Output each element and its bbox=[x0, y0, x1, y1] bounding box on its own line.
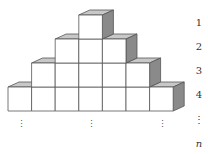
column-dots-right: ⋮ bbox=[158, 119, 167, 129]
cube-front-face bbox=[126, 87, 150, 111]
cube-front-face bbox=[32, 87, 56, 111]
row-label-3: 3 bbox=[193, 65, 205, 76]
cube-front-face bbox=[79, 87, 103, 111]
cube-front-face bbox=[8, 87, 32, 111]
cube-front-face bbox=[55, 63, 79, 87]
row-label-1: 1 bbox=[193, 17, 205, 28]
row-label-continuation: ⋮ bbox=[193, 114, 205, 125]
column-dots-center: ⋮ bbox=[87, 119, 96, 129]
row-label-2: 2 bbox=[193, 41, 205, 52]
cube-side-face bbox=[150, 58, 161, 87]
cube-front-face bbox=[126, 63, 150, 87]
cube-front-face bbox=[55, 39, 79, 63]
cube-side-face bbox=[102, 10, 113, 39]
cube-front-face bbox=[79, 63, 103, 87]
cube-front-face bbox=[55, 87, 79, 111]
cube-side-face bbox=[173, 82, 184, 111]
cube-pyramid bbox=[0, 0, 208, 154]
row-label-4: 4 bbox=[193, 89, 205, 100]
cube-front-face bbox=[102, 87, 126, 111]
cube-side-face bbox=[126, 34, 137, 63]
cube-front-face bbox=[150, 87, 174, 111]
cube-front-face bbox=[79, 15, 103, 39]
row-label-n: n bbox=[193, 138, 205, 149]
cube-front-face bbox=[79, 39, 103, 63]
cube-front-face bbox=[102, 63, 126, 87]
cube-front-face bbox=[102, 39, 126, 63]
cube-pyramid-figure: 1 2 3 4 ⋮ n ⋮ ⋮ ⋮ bbox=[0, 0, 208, 154]
column-dots-left: ⋮ bbox=[17, 119, 26, 129]
cube-front-face bbox=[32, 63, 56, 87]
